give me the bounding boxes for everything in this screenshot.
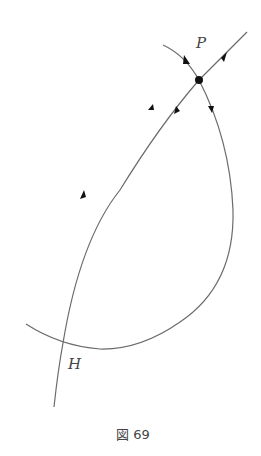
arrow-icon-left-branch xyxy=(148,104,154,110)
figure-caption: 図 69 xyxy=(116,424,150,443)
figure-canvas: P H 図 69 xyxy=(0,0,261,456)
unstable-manifold-upper-left xyxy=(163,45,199,80)
arrow-icon-loop-bottom xyxy=(80,190,86,199)
label-H: H xyxy=(68,355,81,373)
unstable-manifold-loop xyxy=(26,80,233,349)
arrow-icon-outgoing-upper-left xyxy=(183,55,190,64)
saddle-point-node xyxy=(195,76,203,84)
label-P: P xyxy=(196,34,206,52)
phase-portrait xyxy=(0,0,261,456)
